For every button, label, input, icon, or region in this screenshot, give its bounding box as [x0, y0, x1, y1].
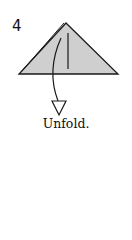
hollow-arrowhead-icon — [52, 101, 66, 115]
instruction-caption: Unfold. — [0, 118, 132, 131]
